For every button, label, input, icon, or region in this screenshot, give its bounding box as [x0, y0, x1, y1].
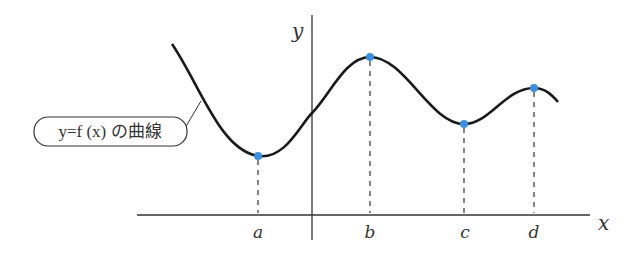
callout-leader: [185, 101, 201, 128]
function-graph: y=f (x) の曲線 y x a b c d: [0, 0, 643, 259]
label-c: c: [460, 222, 470, 242]
y-axis-label: y: [291, 19, 304, 43]
x-axis-label: x: [598, 211, 609, 235]
curve-f: [172, 44, 558, 156]
point-c: [460, 120, 468, 128]
label-a: a: [253, 222, 263, 242]
point-d: [530, 84, 538, 92]
drop-lines: [258, 61, 534, 213]
label-b: b: [365, 222, 376, 242]
point-a: [254, 152, 262, 160]
label-d: d: [529, 222, 540, 242]
point-b: [366, 53, 374, 61]
curve-label: y=f (x) の曲線: [58, 122, 161, 141]
